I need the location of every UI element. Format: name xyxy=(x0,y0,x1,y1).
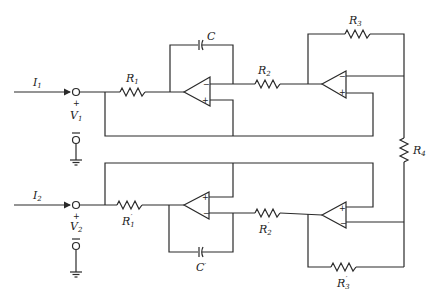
label-r2: R2 xyxy=(257,64,271,78)
circuit-diagram: I1 + V1 R1 C − + R2 − + xyxy=(0,0,436,298)
label-v2: V2 xyxy=(70,220,83,234)
svg-text:−: − xyxy=(203,80,210,89)
ground-icon xyxy=(70,250,82,278)
opamp-a2: − + xyxy=(322,71,346,98)
label-r3: R3 xyxy=(348,14,362,28)
terminal-v1-minus xyxy=(73,137,80,144)
resistor-r2 xyxy=(255,80,280,88)
svg-text:−: − xyxy=(340,219,347,228)
label-c-prime: C′ xyxy=(196,261,206,274)
svg-text:+: + xyxy=(202,193,209,202)
ground-icon xyxy=(70,144,82,166)
label-r2-prime: R2′ xyxy=(258,221,272,237)
opamp-a4: + − xyxy=(322,202,347,228)
resistor-r1-prime xyxy=(117,201,142,209)
port-2: I2 + V2 xyxy=(14,189,83,277)
label-i2: I2 xyxy=(32,189,42,203)
terminal-v2-minus xyxy=(73,243,80,250)
label-r1: R1 xyxy=(125,72,139,86)
label-c: C xyxy=(207,30,216,43)
svg-text:−: − xyxy=(339,72,346,81)
resistor-r4 xyxy=(400,138,408,162)
svg-text:−: − xyxy=(203,209,210,218)
resistor-r2-prime xyxy=(255,209,280,217)
label-r1-prime: R1′ xyxy=(121,213,135,229)
port-1: I1 + V1 xyxy=(14,76,82,165)
plus-sign: + xyxy=(73,99,80,108)
resistor-r1 xyxy=(120,88,145,96)
opamp-a3: + − xyxy=(184,192,210,219)
resistor-r3 xyxy=(345,30,370,38)
svg-text:+: + xyxy=(339,88,346,97)
terminal-v2-plus xyxy=(73,202,80,209)
opamp-a1: − + xyxy=(184,77,210,106)
resistor-r3-prime xyxy=(331,263,356,271)
terminal-v1-plus xyxy=(73,89,80,96)
label-i1: I1 xyxy=(32,76,42,90)
svg-text:+: + xyxy=(339,204,346,213)
label-r3-prime: R3′ xyxy=(336,275,350,291)
label-r4: R4 xyxy=(412,144,426,158)
label-v1: V1 xyxy=(70,109,82,123)
svg-text:+: + xyxy=(202,96,209,105)
